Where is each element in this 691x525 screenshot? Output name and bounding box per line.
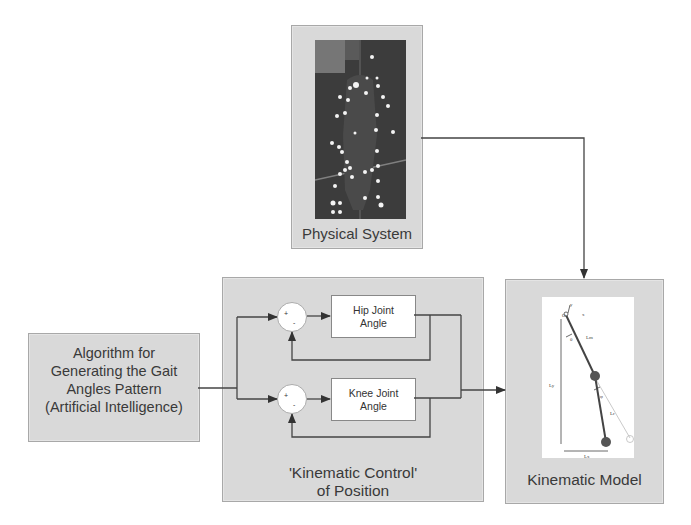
knee-joint-angle-block: Knee Joint Angle (331, 378, 416, 421)
algorithm-label: Algorithm for Generating the Gait Angles… (29, 344, 199, 416)
kinematic-model-panel: y O x θ Lm Ly φ Lr Lx Kinematic Model (505, 279, 664, 504)
thigh-angle-label: θ (570, 337, 573, 342)
origin-label: O (562, 313, 566, 318)
knee-block-line-1: Knee Joint (349, 387, 399, 400)
algorithm-label-line-1: Algorithm for (29, 344, 199, 362)
y-axis-label: y (570, 302, 573, 307)
kinematic-model-label: Kinematic Model (506, 471, 663, 489)
algorithm-label-line-3: Angles Pattern (29, 380, 199, 398)
kinematic-control-label: 'Kinematic Control' of Position (223, 464, 483, 500)
photo-background-wall (315, 40, 345, 73)
leg-linkage-diagram: y O x θ Lm Ly φ Lr Lx (542, 297, 634, 458)
motion-capture-photo (315, 40, 406, 219)
horizontal-label: Lx (584, 454, 590, 458)
algorithm-panel: Algorithm for Generating the Gait Angles… (28, 333, 200, 442)
shank-angle-label: φ (600, 394, 603, 399)
physical-system-label: Physical System (292, 225, 422, 242)
control-title-line-2: of Position (223, 482, 483, 500)
hip-joint-angle-block: Hip Joint Angle (331, 295, 416, 338)
hip-block-line-2: Angle (360, 317, 387, 330)
photo-background-wall-2 (345, 40, 359, 60)
knee-block-line-2: Angle (360, 400, 387, 413)
thigh-length-label: Lm (586, 335, 593, 340)
physical-to-model-arrow (421, 138, 584, 278)
shank-length-label: Lr (610, 411, 615, 416)
algorithm-label-line-2: Generating the Gait (29, 362, 199, 380)
control-title-line-1: 'Kinematic Control' (223, 464, 483, 482)
hip-block-line-1: Hip Joint (353, 304, 394, 317)
height-label: Ly (549, 383, 555, 388)
kinematic-figure: y O x θ Lm Ly φ Lr Lx (542, 297, 634, 458)
algorithm-label-line-4: (Artificial Intelligence) (29, 398, 199, 416)
x-axis-label: x (582, 312, 585, 317)
physical-system-panel: Physical System (291, 25, 423, 249)
